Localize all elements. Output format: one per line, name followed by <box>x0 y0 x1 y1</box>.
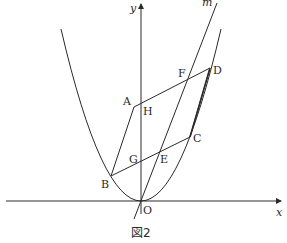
segment-cd-thick <box>190 68 210 137</box>
point-g-label: G <box>129 153 138 166</box>
point-c-label: C <box>193 132 201 145</box>
x-axis-label: x <box>276 206 283 219</box>
point-f-label: F <box>178 67 186 80</box>
point-e-label: E <box>160 153 168 166</box>
point-b-label: B <box>101 178 109 191</box>
point-h-label: H <box>143 105 153 118</box>
origin-label: O <box>143 204 152 217</box>
figure-caption: 図2 <box>131 226 151 240</box>
point-d-label: D <box>213 64 222 77</box>
y-axis-label: y <box>129 2 137 15</box>
line-m-label: m <box>202 0 212 9</box>
diagram: y x O m A H B C D E F G 図2 <box>0 0 287 243</box>
point-a-label: A <box>122 95 132 108</box>
